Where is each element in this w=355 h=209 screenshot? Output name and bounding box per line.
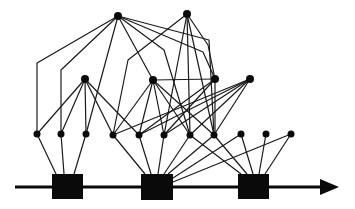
edge: [265, 134, 291, 174]
node-t2: [183, 10, 191, 18]
edge: [139, 79, 250, 135]
node-b2: [58, 131, 65, 138]
node-b4: [110, 132, 117, 139]
edge: [164, 135, 190, 174]
node-b6: [161, 132, 168, 139]
edge: [190, 135, 241, 174]
nodes-layer: [34, 10, 295, 139]
node-t1: [114, 12, 122, 20]
edge: [86, 16, 118, 134]
node-b9: [238, 131, 245, 138]
square-block-s1: [52, 174, 83, 199]
layered-graph-diagram: [0, 0, 355, 209]
node-b5: [136, 132, 143, 139]
edge: [259, 134, 266, 174]
edge: [158, 135, 164, 174]
edge: [37, 134, 56, 174]
edge: [118, 16, 190, 135]
node-b8: [211, 132, 218, 139]
edge: [118, 16, 214, 135]
edges-layer: [37, 14, 291, 182]
edge: [74, 134, 86, 174]
node-m4: [246, 75, 254, 83]
square-block-s2: [141, 174, 173, 200]
edge: [61, 134, 64, 174]
edge: [118, 16, 215, 79]
edge: [187, 14, 190, 135]
edge: [173, 134, 291, 182]
edge: [61, 79, 85, 134]
square-block-s3: [238, 174, 269, 199]
arrowhead-icon: [320, 179, 339, 195]
node-b10: [263, 131, 270, 138]
node-b3: [83, 131, 90, 138]
edge: [85, 79, 86, 134]
node-b1: [34, 131, 41, 138]
node-m3: [211, 75, 219, 83]
edge: [61, 16, 118, 134]
edge: [153, 79, 215, 80]
node-m2: [149, 76, 157, 84]
node-b7: [187, 132, 194, 139]
edge: [118, 16, 153, 80]
node-m1: [81, 75, 89, 83]
edge: [37, 16, 118, 134]
node-b11: [288, 131, 295, 138]
